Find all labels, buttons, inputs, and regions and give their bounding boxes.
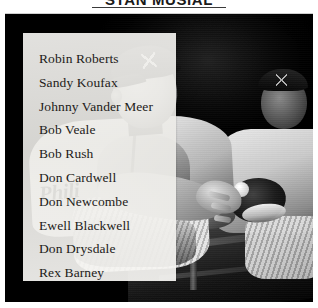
list-item: Don Newcombe [39,190,170,214]
list-item: Bob Rush [39,142,170,166]
name-list-panel: Robin Roberts Sandy Koufax Johnny Vander… [23,33,176,281]
cap-logo-icon [276,74,287,86]
list-item: Johnny Vander Meer [39,95,170,119]
list-item: Don Drysdale [39,237,170,261]
background-player-leg [245,216,313,279]
list-item: Ewell Blackwell [39,214,170,238]
list-item: Sandy Koufax [39,71,170,95]
list-item: Robin Roberts [39,47,170,71]
heading-underline [92,7,226,8]
list-item: Bob Veale [39,118,170,142]
page-root: STAN MUSIAL hili Phili [0,0,318,308]
list-item: Don Cardwell [39,166,170,190]
pitcher-name-list: Robin Roberts Sandy Koufax Johnny Vander… [39,47,170,285]
photo-frame: hili Phili [5,13,313,302]
list-item: Rex Barney [39,261,170,285]
